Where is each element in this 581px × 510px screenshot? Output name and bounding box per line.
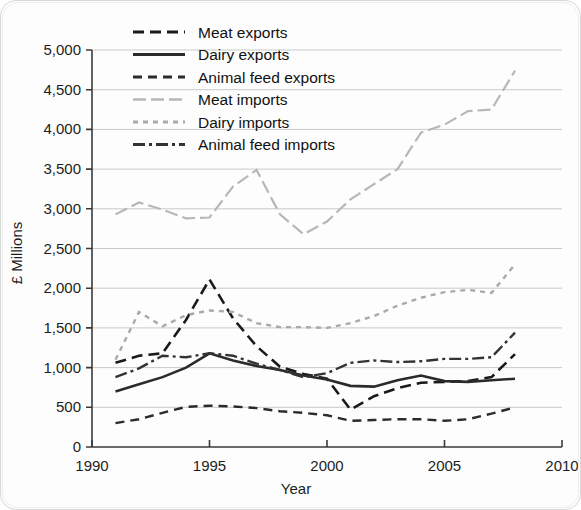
x-tick-label: 2000 xyxy=(310,457,343,474)
y-tick-label: 0 xyxy=(73,438,81,455)
y-tick-label: 500 xyxy=(56,398,81,415)
series-line-animal-feed-imports xyxy=(116,333,516,377)
y-axis-title: £ Millions xyxy=(8,222,25,285)
series-line-animal-feed-exports xyxy=(116,406,516,423)
y-tick-label: 5,000 xyxy=(43,41,81,58)
legend-label-dairy-exports: Dairy exports xyxy=(198,46,290,63)
legend-label-meat-imports: Meat imports xyxy=(198,91,288,108)
x-axis-ticks: 19901995200020052010 xyxy=(75,440,578,474)
data-series-layer xyxy=(116,71,516,424)
legend-label-animal-feed-imports: Animal feed imports xyxy=(198,136,335,153)
x-tick-label: 1995 xyxy=(193,457,226,474)
y-tick-label: 1,000 xyxy=(43,359,81,376)
y-tick-label: 3,500 xyxy=(43,160,81,177)
line-chart: 05001,0001,5002,0002,5003,0003,5004,0004… xyxy=(0,0,581,510)
series-line-dairy-imports xyxy=(116,264,516,359)
x-tick-label: 1990 xyxy=(75,457,108,474)
x-axis-title: Year xyxy=(281,480,311,497)
series-line-meat-exports xyxy=(116,279,516,409)
y-tick-label: 3,000 xyxy=(43,200,81,217)
x-tick-label: 2005 xyxy=(428,457,461,474)
legend-label-dairy-imports: Dairy imports xyxy=(198,114,290,131)
legend-label-animal-feed-exports: Animal feed exports xyxy=(198,69,335,86)
legend-label-meat-exports: Meat exports xyxy=(198,24,288,41)
y-tick-label: 1,500 xyxy=(43,319,81,336)
y-tick-label: 2,000 xyxy=(43,279,81,296)
gridlines xyxy=(92,50,562,407)
y-tick-label: 2,500 xyxy=(43,240,81,257)
y-tick-label: 4,000 xyxy=(43,120,81,137)
chart-legend: Meat exportsDairy exportsAnimal feed exp… xyxy=(133,24,335,154)
x-tick-label: 2010 xyxy=(545,457,578,474)
y-axis-ticks: 05001,0001,5002,0002,5003,0003,5004,0004… xyxy=(43,41,92,455)
chart-figure: 05001,0001,5002,0002,5003,0003,5004,0004… xyxy=(0,0,581,510)
y-tick-label: 4,500 xyxy=(43,81,81,98)
